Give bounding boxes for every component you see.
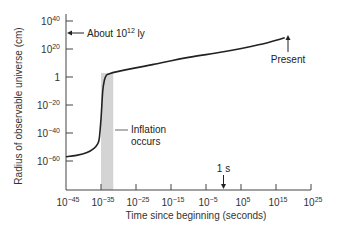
x-tick-label: 10−25 [127, 196, 150, 208]
radius-line [66, 38, 285, 157]
arrow-up-icon [286, 35, 291, 40]
x-tick-label: 105 [235, 196, 250, 208]
y-tick-label: 10−60 [37, 155, 60, 167]
x-tick-label: 10−15 [162, 196, 185, 208]
y-tick-label: 1 [54, 72, 60, 83]
arrow-down-icon [221, 184, 226, 189]
y-tick-label: 10−40 [37, 127, 60, 139]
x-tick-label: 10−5 [198, 196, 217, 208]
annotation-inflation-occurs: Inflation [131, 124, 166, 135]
arrow-left-icon [67, 31, 72, 36]
x-tick-label: 10−45 [57, 196, 80, 208]
annotation-inflation-occurs-line2: occurs [131, 136, 160, 147]
x-axis-title: Time since beginning (seconds) [126, 210, 267, 221]
y-axis-title: Radius of observable universe (cm) [13, 27, 24, 184]
x-tick-label: 1015 [269, 196, 288, 208]
y-tick-label: 10−20 [37, 99, 60, 111]
radius-curve [66, 38, 285, 157]
x-tick-label: 1025 [304, 196, 323, 208]
y-tick-label: 1020 [41, 43, 60, 55]
x-axis-ticks: 10−4510−3510−2510−1510−510510151025 [57, 184, 323, 208]
annotation-present: Present [271, 54, 306, 65]
annotation-about-10-12-ly: About 1012 ly [87, 27, 145, 39]
x-tick-label: 10−35 [92, 196, 115, 208]
y-tick-label: 1040 [41, 15, 60, 27]
y-axis-ticks: 10401020110−2010−4010−60 [37, 15, 73, 167]
chart: 10−4510−3510−2510−1510−510510151025 1040… [0, 0, 342, 234]
annotation-1-second: 1 s [217, 163, 230, 174]
